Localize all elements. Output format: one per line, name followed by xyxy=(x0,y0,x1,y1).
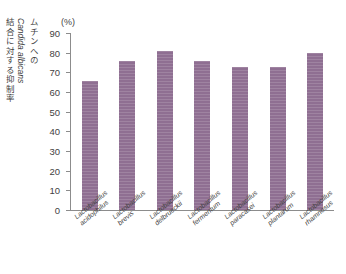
y-axis-title-segment-1: ムチンへの xyxy=(27,18,38,66)
y-axis-tick: 50 xyxy=(66,112,70,113)
y-axis-tick-label: 30 xyxy=(49,146,60,157)
bar-slot xyxy=(148,33,182,210)
bar-chart: ムチンへの Candida albicans 結合に対する抑制率 (%) 010… xyxy=(0,0,346,274)
y-axis-tick-label: 10 xyxy=(49,185,60,196)
y-axis-tick: 20 xyxy=(66,171,70,172)
bar xyxy=(194,61,210,210)
y-axis-tick-label: 70 xyxy=(49,67,60,78)
x-axis-label-slot: Lactobacillusrhamnosus xyxy=(296,213,334,273)
y-axis-tick-label: 20 xyxy=(49,165,60,176)
y-axis-tick: 30 xyxy=(66,151,70,152)
x-axis-label-slot: Lactobacillusdelbrueckii xyxy=(146,213,184,273)
y-axis-title-segment-2: Candida albicans xyxy=(15,18,26,83)
y-axis-tick: 70 xyxy=(66,72,70,73)
y-axis-tick-label: 80 xyxy=(49,47,60,58)
bar xyxy=(119,61,135,210)
y-axis-tick-label: 90 xyxy=(49,28,60,39)
bar-slot xyxy=(223,33,257,210)
bar xyxy=(157,51,173,210)
bar xyxy=(82,81,98,210)
bar xyxy=(307,53,323,210)
x-axis-label-slot: Lactobacillusbrevis xyxy=(109,213,147,273)
bar-series xyxy=(71,33,334,210)
x-axis-label-slot: Lactobacillusplantarum xyxy=(259,213,297,273)
bar xyxy=(270,67,286,210)
y-axis-tick: 40 xyxy=(66,131,70,132)
x-axis-label-slot: Lactobacillusparacasei xyxy=(221,213,259,273)
bar-slot xyxy=(185,33,219,210)
plot-area: 0102030405060708090 xyxy=(70,33,334,211)
y-axis-tick: 10 xyxy=(66,190,70,191)
y-axis-tick: 90 xyxy=(66,33,70,34)
x-axis-label-slot: Lactobacillusfermentum xyxy=(184,213,222,273)
y-axis-tick: 60 xyxy=(66,92,70,93)
x-axis-tick-labels: LactobacillusacidophilusLactobacillusbre… xyxy=(70,213,334,273)
bar xyxy=(232,67,248,210)
x-axis-label-slot: Lactobacillusacidophilus xyxy=(71,213,109,273)
bar-slot xyxy=(298,33,332,210)
y-axis-tick: 80 xyxy=(66,53,70,54)
bar-slot xyxy=(110,33,144,210)
y-axis-tick-label: 60 xyxy=(49,87,60,98)
bar-slot xyxy=(73,33,107,210)
y-axis-title: ムチンへの Candida albicans 結合に対する抑制率 xyxy=(4,18,38,223)
y-axis-tick-label: 50 xyxy=(49,106,60,117)
y-axis-tick: 0 xyxy=(66,210,70,211)
y-axis-title-segment-3: 結合に対する抑制率 xyxy=(3,18,14,104)
y-axis-unit-label: (%) xyxy=(61,17,75,27)
y-axis-tick-label: 40 xyxy=(49,126,60,137)
y-axis-tick-label: 0 xyxy=(55,205,60,216)
bar-slot xyxy=(261,33,295,210)
